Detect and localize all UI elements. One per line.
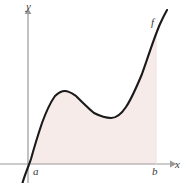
function-label-f: f [151, 17, 154, 28]
upper-limit-label-b: b [152, 166, 158, 177]
area-under-curve-figure: y x a b f [0, 0, 185, 183]
lower-limit-label-a: a [33, 166, 39, 177]
y-axis-label: y [26, 1, 31, 12]
shaded-area-under-curve [31, 33, 156, 164]
x-axis-label: x [175, 159, 180, 170]
figure-canvas [0, 0, 185, 183]
